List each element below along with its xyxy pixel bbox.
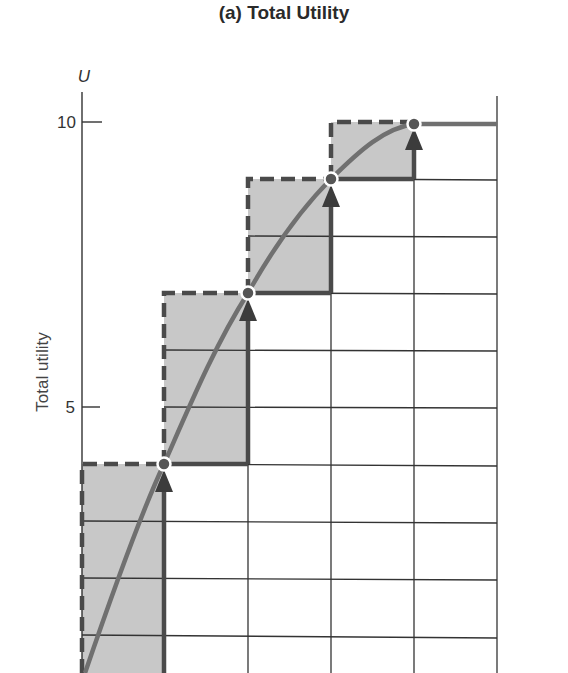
y-tick-label-10: 10 bbox=[57, 113, 76, 132]
mu-bar-4 bbox=[331, 122, 414, 179]
y-axis-symbol: U bbox=[78, 67, 91, 86]
data-point bbox=[408, 118, 421, 131]
y-axis-label: Total utility bbox=[33, 332, 52, 412]
total-utility-chart: 10 5 U Total utility bbox=[0, 0, 568, 673]
data-point bbox=[325, 173, 338, 186]
y-tick-label-5: 5 bbox=[66, 398, 75, 417]
data-point bbox=[242, 287, 255, 300]
data-point bbox=[158, 458, 171, 471]
